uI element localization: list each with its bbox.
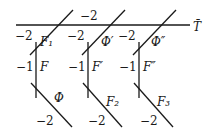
- lower-curve-label: F₂: [105, 95, 119, 109]
- vertical-curve-weight: −1: [68, 60, 86, 74]
- lower-curve-weight: −2: [88, 114, 106, 128]
- curve-group-1: −2 F₁ −1 F Φ −2: [15, 10, 73, 128]
- vertical-curve-label: F: [39, 60, 49, 74]
- vertical-curve-label: F″: [142, 60, 156, 74]
- line-T-weight: −2: [80, 9, 98, 23]
- curve-group-2: −2 Φ′ −1 F′ F₂ −2: [67, 10, 125, 128]
- upper-curve-weight: −2: [67, 29, 85, 43]
- upper-curve-label: Φ′: [101, 35, 114, 49]
- vertical-curve-weight: −1: [119, 60, 137, 74]
- upper-curve-weight: −2: [118, 29, 136, 43]
- upper-curve-weight: −2: [15, 29, 33, 43]
- curve-group-3: −2 Φ″ −1 F″ F₃ −2: [118, 10, 176, 128]
- lower-curve-weight: −2: [140, 114, 158, 128]
- upper-curve-label: F₁: [39, 35, 53, 49]
- line-T-label: T̄: [193, 19, 202, 34]
- curve-configuration-diagram: T̄ −2 −2 F₁ −1 F Φ −2 −2 Φ′ −1 F′ F₂ −2 …: [0, 0, 212, 137]
- lower-curve-label: F₃: [156, 95, 170, 109]
- upper-curve-label: Φ″: [151, 35, 166, 49]
- vertical-curve-weight: −1: [16, 60, 34, 74]
- lower-curve-weight: −2: [36, 114, 54, 128]
- vertical-curve-label: F′: [91, 60, 103, 74]
- lower-curve-label: Φ: [54, 91, 64, 105]
